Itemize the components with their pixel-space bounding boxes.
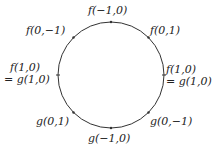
- point-top-left: [72, 36, 74, 38]
- diagram-canvas: f(−1,0) f(0,1) f(0,−1) f(1,0) = g(1,0) f…: [0, 0, 223, 151]
- point-bottom-right: [147, 111, 149, 113]
- point-bottom: [110, 127, 112, 129]
- point-bottom-left: [72, 111, 74, 113]
- label-top-right: f(0,1): [150, 25, 180, 36]
- label-top-left: f(0,−1): [26, 25, 65, 36]
- label-bottom-left: g(0,1): [36, 116, 69, 127]
- label-bottom-right: g(0,−1): [150, 116, 192, 127]
- point-top: [110, 21, 112, 23]
- label-top: f(−1,0): [88, 5, 127, 16]
- label-left-line1: f(1,0): [10, 62, 40, 73]
- label-right-line2: = g(1,0): [166, 76, 212, 87]
- label-right-line1: f(1,0): [166, 64, 196, 75]
- label-bottom: g(−1,0): [88, 133, 130, 144]
- label-left-line2: = g(1,0): [4, 74, 50, 85]
